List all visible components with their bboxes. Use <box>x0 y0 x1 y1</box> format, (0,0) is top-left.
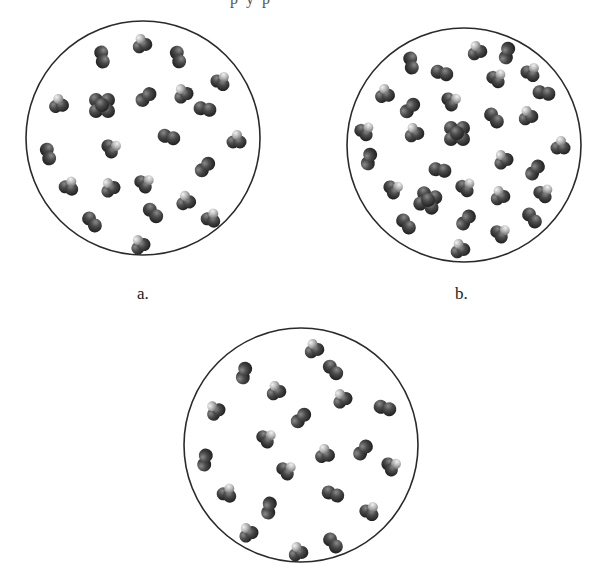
molecule-triatomic <box>129 31 154 55</box>
diagram-canvas <box>0 0 590 569</box>
molecule-triatomic <box>352 117 379 144</box>
panel-a-container <box>26 21 260 257</box>
molecule-diatomic <box>427 161 452 179</box>
molecule-triatomic <box>439 87 465 114</box>
molecule-triatomic <box>173 189 197 212</box>
molecule-diatomic <box>93 44 111 69</box>
molecule-triatomic <box>489 146 516 172</box>
molecule-triatomic <box>227 130 247 149</box>
molecule-triatomic <box>126 231 153 257</box>
molecule-triatomic <box>488 219 515 246</box>
molecule-triatomic <box>96 174 123 200</box>
molecule-diatomic <box>133 84 160 110</box>
molecule-diatomic <box>402 50 420 75</box>
molecule-diatomic <box>350 437 376 464</box>
molecule-triatomic <box>464 38 489 62</box>
molecule-triatomic <box>373 82 396 104</box>
molecule-triatomic <box>132 169 159 196</box>
molecule-diatomic <box>359 146 378 172</box>
panel-a-label: a. <box>137 284 149 304</box>
molecule-triatomic <box>484 64 511 91</box>
molecule-triatomic <box>531 179 558 206</box>
panel-b-label: b. <box>455 284 468 304</box>
molecule-triatomic <box>401 120 426 144</box>
molecule-diatomic <box>234 360 253 386</box>
molecule-triatomic <box>357 497 384 523</box>
panel-a-boundary-circle <box>26 21 260 255</box>
molecule-triatomic <box>234 519 261 545</box>
molecule-triatomic <box>169 80 196 106</box>
molecule-triatomic <box>254 424 281 451</box>
molecule-diatomic <box>288 405 314 431</box>
molecule-diatomic <box>497 40 516 66</box>
molecule-diatomic <box>397 95 423 121</box>
molecule-triatomic <box>274 456 301 483</box>
molecule-diatomic <box>519 205 545 232</box>
molecule-diatomic <box>320 483 346 504</box>
molecule-diatomic <box>156 127 182 146</box>
molecule-triatomic <box>215 480 240 504</box>
molecule-triatomic <box>379 452 405 479</box>
molecule-diatomic <box>372 398 398 417</box>
panel-c-boundary-circle <box>184 328 418 562</box>
molecule-cluster4 <box>411 184 444 216</box>
molecule-diatomic <box>192 100 217 118</box>
molecule-diatomic <box>79 209 105 236</box>
molecule-diatomic <box>38 141 57 167</box>
molecule-diatomic <box>453 207 479 234</box>
molecule-diatomic <box>522 157 548 184</box>
molecule-triatomic <box>447 236 472 260</box>
molecule-triatomic <box>263 378 288 402</box>
molecule-cluster4 <box>89 93 115 118</box>
molecule-diatomic <box>393 211 419 238</box>
molecule-triatomic <box>208 67 235 93</box>
molecule-diatomic <box>140 200 166 226</box>
panel-b-container <box>347 28 581 262</box>
molecule-diatomic <box>320 357 346 383</box>
molecule-diatomic <box>260 495 278 520</box>
molecule-triatomic <box>285 539 310 563</box>
molecule-triatomic <box>453 173 480 200</box>
molecule-diatomic <box>429 63 455 82</box>
molecule-triatomic <box>515 103 540 127</box>
molecule-diatomic <box>192 154 218 180</box>
molecule-cluster4 <box>444 121 470 146</box>
molecule-triatomic <box>381 175 407 202</box>
molecule-diatomic <box>320 530 346 557</box>
molecule-triatomic <box>301 336 326 360</box>
molecule-triatomic <box>57 173 82 197</box>
molecule-triatomic <box>313 442 336 464</box>
molecule-triatomic <box>487 183 512 207</box>
molecule-triatomic <box>551 136 571 155</box>
molecule-triatomic <box>201 396 228 423</box>
molecule-diagram: p y p a. b. <box>0 0 590 569</box>
molecule-triatomic <box>47 92 70 114</box>
molecule-triatomic <box>99 134 125 161</box>
panel-c-container <box>184 328 418 563</box>
molecule-diatomic <box>531 84 556 102</box>
molecule-diatomic <box>168 44 187 70</box>
molecule-diatomic <box>196 447 214 472</box>
molecule-triatomic <box>328 385 355 411</box>
molecule-diatomic <box>481 105 507 132</box>
molecule-triatomic <box>518 58 545 84</box>
